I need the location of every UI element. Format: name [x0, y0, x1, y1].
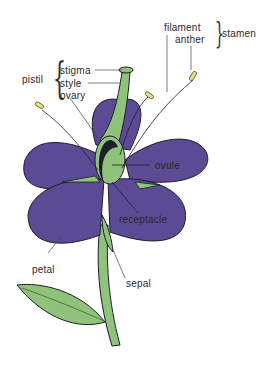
petal-bottom-right: [108, 179, 186, 241]
label-style: style: [60, 78, 82, 89]
label-stamen: stamen: [222, 28, 256, 39]
label-sepal: sepal: [126, 278, 151, 289]
label-ovary: ovary: [60, 90, 85, 101]
petal-bottom-left: [28, 179, 104, 243]
label-petal: petal: [32, 264, 55, 275]
label-anther: anther: [175, 34, 205, 45]
label-pistil: pistil: [22, 74, 43, 85]
label-receptacle: receptacle: [119, 214, 167, 225]
label-ovule: ovule: [155, 160, 180, 171]
leaf: [17, 284, 105, 324]
label-filament: filament: [164, 22, 201, 33]
flower-illustration: [0, 0, 270, 369]
label-stigma: stigma: [60, 65, 91, 76]
